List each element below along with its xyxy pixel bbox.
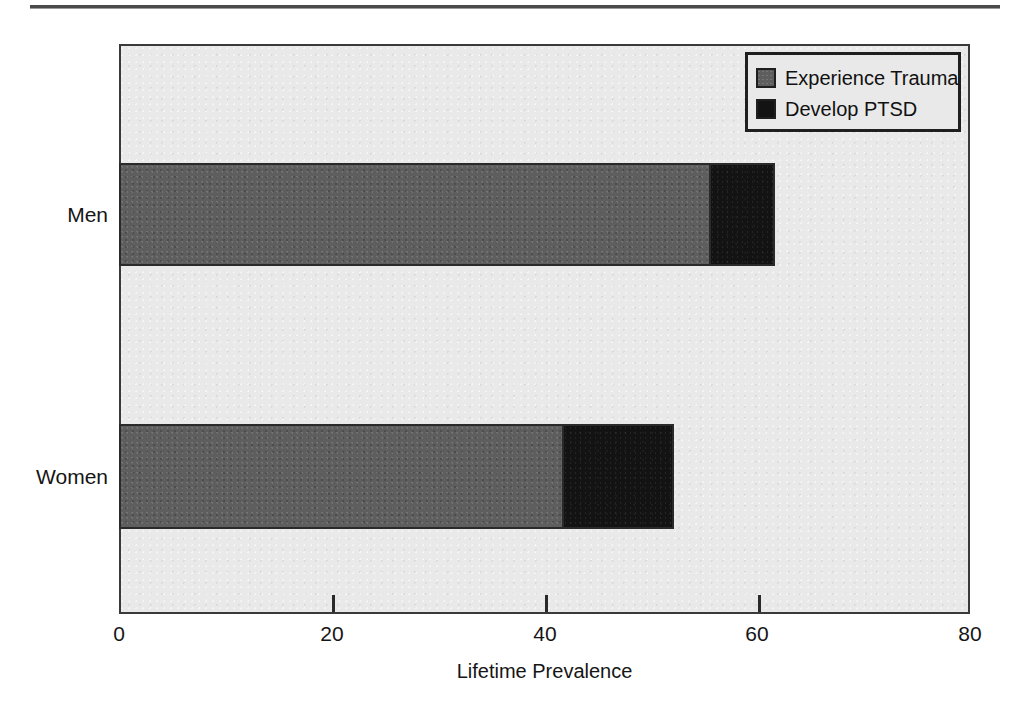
x-axis-ticklabel-80: 80 (930, 622, 1010, 646)
legend: Experience Trauma Develop PTSD (745, 52, 961, 132)
legend-item-develop-ptsd: Develop PTSD (756, 93, 958, 124)
legend-swatch-icon-develop-ptsd (756, 99, 776, 119)
bar-women (119, 424, 972, 529)
x-axis-tick-60 (758, 595, 761, 612)
legend-label-experience-trauma: Experience Trauma (785, 68, 958, 88)
bar-chart-figure: Men Women Experience Trauma Develop PTSD (0, 0, 1027, 708)
legend-item-experience-trauma: Experience Trauma (756, 62, 958, 93)
x-axis-tick-40 (545, 595, 548, 612)
x-axis-title: Lifetime Prevalence (119, 660, 970, 683)
y-axis-label-women: Women (8, 466, 108, 487)
legend-label-develop-ptsd: Develop PTSD (785, 99, 917, 119)
x-axis-ticklabel-40: 40 (505, 622, 585, 646)
legend-swatch-icon-experience-trauma (756, 68, 776, 88)
bar-men-segment-experience-trauma (119, 163, 710, 266)
bar-women-segment-experience-trauma (119, 424, 563, 529)
bar-women-segment-develop-ptsd (563, 424, 674, 529)
x-axis-tick-20 (332, 595, 335, 612)
x-axis-ticklabel-60: 60 (717, 622, 797, 646)
y-axis-label-men: Men (8, 204, 108, 225)
x-axis-ticklabel-20: 20 (292, 622, 372, 646)
x-axis-ticklabel-0: 0 (79, 622, 159, 646)
bar-men (119, 163, 972, 266)
bar-men-segment-develop-ptsd (710, 163, 775, 266)
